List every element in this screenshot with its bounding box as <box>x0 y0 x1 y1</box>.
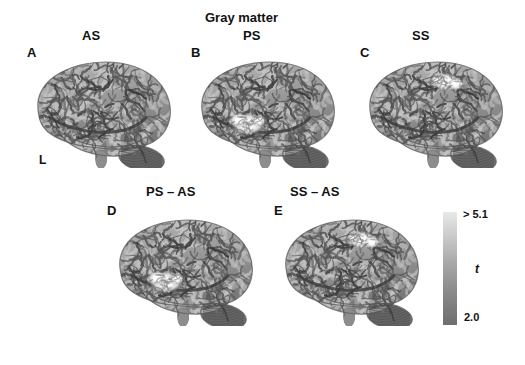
gray-matter-figure: Gray matter AS PS SS A B C PS – AS SS – … <box>0 0 525 365</box>
condition-label-ss: SS <box>412 29 429 42</box>
colorbar-gradient <box>443 212 457 325</box>
brain-render-panel-c <box>360 48 510 168</box>
figure-title: Gray matter <box>205 11 278 24</box>
condition-label-ps-minus-as: PS – AS <box>146 185 195 198</box>
brain-render-panel-a <box>28 48 178 168</box>
brain-render-panel-d <box>110 206 260 326</box>
colorbar-max-label: > 5.1 <box>463 209 488 220</box>
brain-render-panel-e <box>276 206 426 326</box>
brain-render-panel-b <box>192 48 342 168</box>
colorbar-unit-label: t <box>475 263 479 275</box>
colorbar-min-label: 2.0 <box>464 312 479 323</box>
condition-label-ss-minus-as: SS – AS <box>290 185 339 198</box>
condition-label-as: AS <box>82 29 100 42</box>
condition-label-ps: PS <box>243 29 260 42</box>
